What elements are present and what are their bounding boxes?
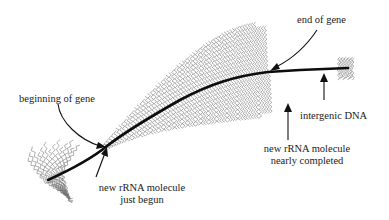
just-begun-pointer bbox=[96, 153, 105, 177]
just-begun-line2: just begun bbox=[92, 194, 192, 206]
arrowhead-icon bbox=[320, 73, 328, 82]
end-of-gene-pointer bbox=[276, 30, 317, 67]
just-begun-label: new rRNA molecule just begun bbox=[92, 182, 192, 206]
just-begun-line1: new rRNA molecule bbox=[92, 182, 192, 194]
intergenic-dna-label: intergenic DNA bbox=[300, 110, 367, 122]
end-of-gene-label: end of gene bbox=[297, 14, 346, 26]
arrowhead-icon bbox=[284, 103, 292, 112]
beginning-of-gene-label: beginning of gene bbox=[19, 93, 95, 105]
arrowhead-icon bbox=[270, 63, 280, 71]
nearly-completed-label: new rRNA molecule nearly completed bbox=[252, 143, 362, 167]
beginning-of-gene-pointer bbox=[58, 104, 100, 146]
previous-gene-fibers bbox=[28, 140, 80, 203]
nearly-completed-line1: new rRNA molecule bbox=[252, 143, 362, 155]
nearly-completed-line2: nearly completed bbox=[252, 155, 362, 167]
